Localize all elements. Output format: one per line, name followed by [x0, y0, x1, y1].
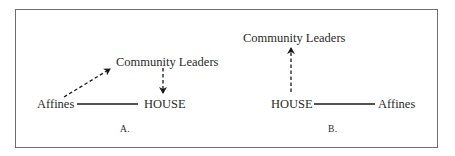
diagram-edges [0, 0, 455, 156]
node-a-house: HOUSE [144, 98, 186, 111]
node-b-affines: Affines [378, 98, 415, 111]
edge-a-affines-to-leaders-arrow [64, 69, 110, 97]
caption-a: A. [120, 125, 130, 135]
node-b-house: HOUSE [271, 98, 313, 111]
node-b-community-leaders: Community Leaders [243, 32, 345, 45]
caption-b: B. [328, 125, 338, 135]
node-a-community-leaders: Community Leaders [116, 56, 218, 69]
node-a-affines: Affines [37, 98, 74, 111]
